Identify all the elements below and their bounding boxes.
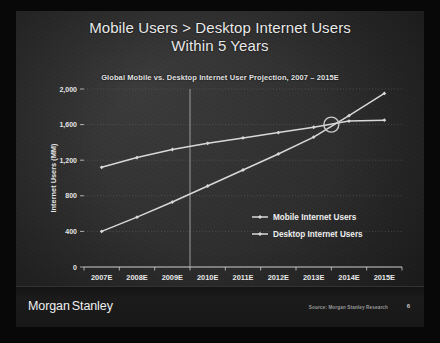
series-line-2	[102, 120, 385, 167]
source-attribution: Source: Morgan Stanley Research	[309, 305, 388, 310]
slide-footer: MorganStanley Source: Morgan Stanley Res…	[16, 286, 424, 327]
series-marker	[135, 156, 139, 160]
x-tick-label: 2012E	[268, 273, 289, 282]
series-marker	[241, 136, 245, 140]
series-marker	[100, 165, 104, 169]
photo-frame: Mobile Users > Desktop Internet Users Wi…	[0, 0, 440, 343]
x-tick-label: 2015E	[374, 273, 395, 282]
y-tick-label: 800	[65, 192, 77, 199]
chart-legend: Mobile Internet UsersDesktop Internet Us…	[252, 213, 363, 239]
x-tick-label: 2009E	[162, 273, 183, 282]
morgan-stanley-logo: MorganStanley	[28, 299, 113, 313]
y-tick-label: 1,600	[59, 121, 77, 129]
x-tick-label: 2011E	[233, 273, 254, 282]
series-line-1	[102, 93, 385, 231]
line-chart: 04008001,2001,6002,000 2007E2008E2009E20…	[16, 11, 424, 327]
chart-y-tick-labels: 04008001,2001,6002,000	[59, 86, 77, 271]
x-tick-label: 2014E	[338, 273, 359, 282]
chart-x-tick-labels: 2007E2008E2009E2010E2011E2012E2013E2014E…	[91, 273, 395, 282]
legend-label: Desktop Internet Users	[273, 230, 363, 239]
chart-subtitle: Global Mobile vs. Desktop Internet User …	[16, 73, 424, 82]
brand-secondary: Stanley	[72, 299, 113, 313]
series-marker	[206, 141, 210, 145]
series-marker	[382, 118, 386, 122]
x-tick-label: 2010E	[197, 273, 218, 282]
x-tick-label: 2013E	[303, 273, 324, 282]
slide-title-line-1: Mobile Users > Desktop Internet Users	[16, 19, 424, 37]
chart-axes	[80, 89, 402, 271]
series-marker	[170, 148, 174, 152]
chart-gridlines	[84, 89, 402, 231]
legend-swatch-marker	[258, 232, 262, 236]
legend-swatch-marker	[258, 215, 262, 219]
slide-title: Mobile Users > Desktop Internet Users Wi…	[16, 19, 424, 55]
y-tick-label: 400	[65, 228, 77, 235]
slide-title-line-2: Within 5 Years	[16, 37, 424, 55]
y-tick-label: 1,200	[59, 157, 77, 165]
legend-label: Mobile Internet Users	[273, 213, 357, 222]
series-marker	[276, 131, 280, 135]
chart-y-axis-label: Internet Users (MM)	[49, 143, 58, 213]
brand-primary: Morgan	[28, 299, 70, 313]
page-number: 6	[407, 303, 410, 309]
presentation-slide: Mobile Users > Desktop Internet Users Wi…	[16, 11, 424, 327]
series-marker	[347, 119, 351, 123]
x-tick-label: 2007E	[91, 273, 112, 282]
y-axis-title: Internet Users (MM)	[49, 143, 58, 213]
y-tick-label: 0	[73, 264, 77, 271]
x-tick-label: 2008E	[126, 273, 147, 282]
chart-svg: 04008001,2001,6002,000 2007E2008E2009E20…	[16, 11, 424, 327]
series-marker	[312, 125, 316, 129]
y-tick-label: 2,000	[59, 86, 77, 94]
